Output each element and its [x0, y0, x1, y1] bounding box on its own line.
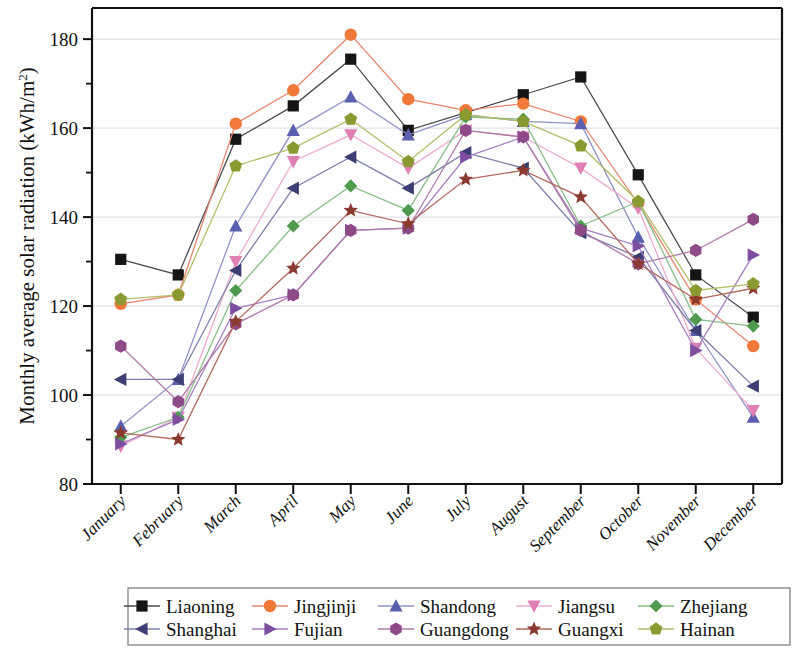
data-point-marker	[747, 340, 759, 352]
data-point-marker	[288, 100, 299, 111]
legend-label: Guangxi	[558, 619, 623, 640]
y-tick-label: 140	[50, 207, 79, 228]
data-point-marker	[264, 600, 276, 612]
legend: LiaoningJingjinjiShandongJiangsuZhejiang…	[124, 588, 790, 645]
x-axis-ticks	[121, 484, 754, 494]
data-point-marker	[575, 71, 586, 82]
y-tick-label: 160	[50, 118, 79, 139]
x-tick-label-july: July	[441, 491, 475, 525]
x-tick-label-october: October	[594, 491, 647, 544]
y-axis-ticks: 80100120140160180	[50, 29, 93, 495]
y-axis-title-text: Monthly average solar radiation (kWh/m2)	[15, 67, 39, 425]
x-tick-label-august: August	[485, 490, 533, 538]
y-tick-label: 80	[59, 474, 78, 495]
x-tick-label-january: January	[77, 491, 130, 544]
x-tick-label-february: February	[128, 491, 188, 551]
legend-label: Guangdong	[420, 619, 509, 640]
legend-label: Liaoning	[166, 596, 235, 617]
y-axis-title: Monthly average solar radiation (kWh/m2)	[15, 67, 39, 425]
y-tick-label: 120	[50, 296, 79, 317]
legend-label: Jingjinji	[294, 596, 356, 617]
data-point-marker	[287, 84, 299, 96]
line-chart: 80100120140160180 Monthly average solar …	[0, 0, 796, 649]
x-tick-label-march: March	[199, 491, 245, 537]
data-point-marker	[345, 54, 356, 65]
solar-radiation-figure: 80100120140160180 Monthly average solar …	[0, 0, 796, 649]
y-tick-label: 180	[50, 29, 79, 50]
data-point-marker	[517, 97, 529, 109]
x-tick-label-april: April	[263, 491, 302, 530]
data-point-marker	[230, 117, 242, 129]
legend-label: Jiangsu	[558, 596, 616, 617]
y-tick-label: 100	[50, 385, 79, 406]
data-point-marker	[402, 93, 414, 105]
legend-label: Hainan	[680, 619, 735, 640]
x-tick-label-june: June	[381, 491, 417, 527]
data-point-marker	[136, 600, 147, 611]
legend-label: Shandong	[420, 596, 497, 617]
data-point-marker	[345, 28, 357, 40]
data-point-marker	[115, 254, 126, 265]
x-tick-label-september: September	[525, 491, 589, 555]
legend-label: Zhejiang	[680, 596, 748, 617]
legend-label: Fujian	[294, 619, 343, 640]
x-axis-labels: JanuaryFebruaryMarchAprilMayJuneJulyAugu…	[77, 490, 763, 555]
legend-label: Shanghai	[166, 619, 237, 640]
x-tick-label-december: December	[699, 491, 763, 555]
x-tick-label-november: November	[641, 491, 705, 555]
data-point-marker	[173, 269, 184, 280]
data-point-marker	[690, 269, 701, 280]
x-tick-label-may: May	[324, 491, 360, 527]
data-point-marker	[633, 169, 644, 180]
